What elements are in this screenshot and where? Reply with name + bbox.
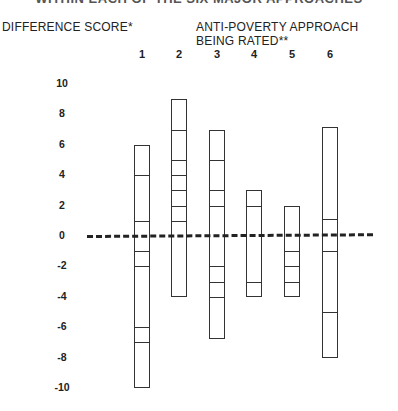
segment-mark xyxy=(210,206,224,207)
segment-mark xyxy=(323,312,337,313)
category-label: 5 xyxy=(282,48,302,60)
y-axis-label: DIFFERENCE SCORE* xyxy=(2,20,133,34)
y-tick-label: -2 xyxy=(50,259,74,271)
segment-mark xyxy=(210,282,224,283)
category-label: 2 xyxy=(169,48,189,60)
y-tick-label: -10 xyxy=(50,381,74,393)
segment-mark xyxy=(285,251,299,252)
category-label: 4 xyxy=(244,48,264,60)
segment-mark xyxy=(135,251,149,252)
y-tick-label: 6 xyxy=(50,138,74,150)
segment-mark xyxy=(285,282,299,283)
range-bar xyxy=(134,145,150,388)
segment-mark xyxy=(210,266,224,267)
category-label: 3 xyxy=(207,48,227,60)
segment-mark xyxy=(135,175,149,176)
segment-mark xyxy=(172,221,186,222)
segment-mark xyxy=(135,221,149,222)
segment-mark xyxy=(135,327,149,328)
category-label: 1 xyxy=(132,48,152,60)
chart-title: WITHIN EACH OF THE SIX MAJOR APPROACHES xyxy=(0,0,398,6)
y-tick-label: 0 xyxy=(50,229,74,241)
segment-mark xyxy=(323,251,337,252)
segment-mark xyxy=(172,206,186,207)
y-tick-label: -8 xyxy=(50,351,74,363)
range-bar xyxy=(246,190,262,296)
y-tick-label: -4 xyxy=(50,290,74,302)
y-tick-label: 8 xyxy=(50,107,74,119)
range-bar xyxy=(322,127,338,358)
segment-mark xyxy=(172,175,186,176)
y-tick-label: 10 xyxy=(50,77,74,89)
segment-mark xyxy=(135,342,149,343)
range-bar xyxy=(171,99,187,297)
y-tick-label: 2 xyxy=(50,199,74,211)
segment-mark xyxy=(247,206,261,207)
segment-mark xyxy=(247,282,261,283)
range-bar xyxy=(284,206,300,297)
y-tick-label: 4 xyxy=(50,168,74,180)
y-tick-label: -6 xyxy=(50,320,74,332)
segment-mark xyxy=(172,130,186,131)
segment-mark xyxy=(172,160,186,161)
category-label: 6 xyxy=(320,48,340,60)
segment-mark xyxy=(172,190,186,191)
segment-mark xyxy=(210,160,224,161)
x-axis-label: ANTI-POVERTY APPROACH BEING RATED** xyxy=(196,20,398,48)
segment-mark xyxy=(135,266,149,267)
segment-mark xyxy=(285,266,299,267)
segment-mark xyxy=(210,190,224,191)
segment-mark xyxy=(210,297,224,298)
segment-mark xyxy=(323,219,337,220)
